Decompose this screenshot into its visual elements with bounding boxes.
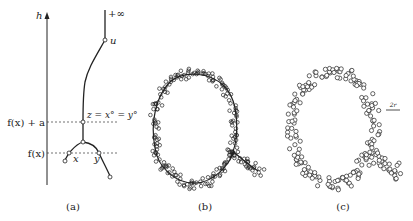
level-label-lower: f(x) (28, 148, 45, 159)
panel-c: 2r (c) (285, 66, 402, 212)
node-z (81, 120, 85, 124)
label-x: x (73, 153, 79, 164)
caption-c: (c) (336, 201, 350, 212)
level-label-upper: f(x) + a (7, 117, 45, 128)
figure-canvas: h f(x) + a f(x) +∞ u z = x° = y° x y (a)… (0, 0, 413, 221)
axis-label-h: h (36, 10, 42, 21)
sample-complex-c (285, 66, 402, 192)
curve-b (153, 74, 258, 183)
node-leaf-left (63, 159, 67, 163)
scale-label: 2r (389, 101, 398, 108)
label-z: z = x° = y° (86, 110, 137, 120)
node-u (103, 38, 107, 42)
node-x (67, 151, 71, 155)
panel-a: h f(x) + a f(x) +∞ u z = x° = y° x y (a) (7, 8, 137, 212)
node-saddle (81, 140, 85, 144)
node-leaf-right (108, 175, 112, 179)
caption-b: (b) (198, 201, 212, 212)
caption-a: (a) (66, 201, 80, 212)
branch-trunk (83, 40, 105, 142)
label-plus-infinity: +∞ (108, 8, 125, 19)
axis-arrow-icon (45, 12, 50, 19)
panel-b: (b) (149, 67, 266, 212)
label-u: u (110, 35, 116, 46)
label-y: y (93, 153, 100, 164)
